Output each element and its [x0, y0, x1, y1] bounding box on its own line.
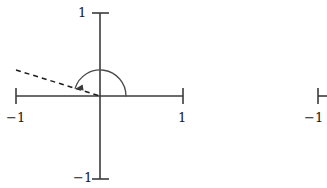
second-figure-group: [318, 88, 327, 104]
x-axis-label-positive-one: 1: [178, 111, 186, 124]
main-axes: [16, 13, 183, 179]
y-axis-label-positive-one: 1: [78, 6, 86, 19]
y-axis-label-negative-one: −1: [73, 171, 92, 184]
angle-diagram-svg: [0, 0, 327, 188]
figure-canvas: 1 −1 −1 1 −1: [0, 0, 327, 188]
second-figure-x-axis-label-negative-one: −1: [304, 111, 323, 124]
x-axis-label-negative-one: −1: [6, 111, 25, 124]
